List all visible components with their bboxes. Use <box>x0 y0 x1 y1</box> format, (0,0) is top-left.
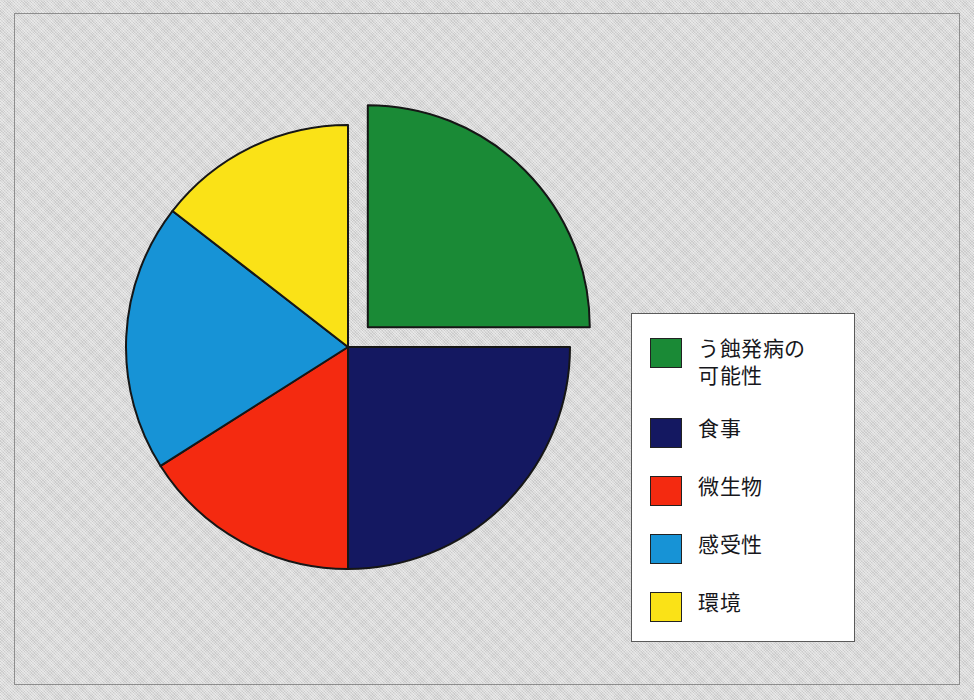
legend-item-microorganisms[interactable]: 微生物 <box>632 474 854 506</box>
legend-label-susceptibility: 感受性 <box>698 532 763 559</box>
legend-label-diet: 食事 <box>698 416 741 443</box>
legend-label-environment: 環境 <box>698 590 741 617</box>
legend-swatch-yellow <box>650 592 682 622</box>
legend-item-susceptibility[interactable]: 感受性 <box>632 532 854 564</box>
legend-label-caries-risk: う蝕発病の 可能性 <box>698 336 806 390</box>
chart-legend: う蝕発病の 可能性 食事 微生物 感受性 環境 <box>631 313 855 642</box>
legend-swatch-cyan <box>650 534 682 564</box>
legend-swatch-navy <box>650 418 682 448</box>
pie-slice-group <box>126 105 590 569</box>
legend-label-microorganisms: 微生物 <box>698 474 763 501</box>
legend-item-environment[interactable]: 環境 <box>632 590 854 622</box>
pie-slice[interactable] <box>348 347 570 569</box>
legend-item-diet[interactable]: 食事 <box>632 416 854 448</box>
pie-chart-figure: う蝕発病の 可能性 食事 微生物 感受性 環境 <box>0 0 974 700</box>
legend-item-caries-risk[interactable]: う蝕発病の 可能性 <box>632 336 854 390</box>
legend-swatch-green <box>650 338 682 368</box>
pie-slice[interactable] <box>368 105 590 327</box>
legend-swatch-red <box>650 476 682 506</box>
